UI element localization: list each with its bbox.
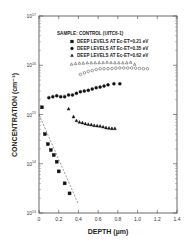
- data-point-circle-hollow: [134, 67, 137, 70]
- data-point-triangle: [67, 107, 70, 110]
- data-point-square: [43, 133, 46, 136]
- data-point-square: [46, 143, 49, 146]
- y-tick-label: 1017: [27, 13, 37, 20]
- data-point-circle: [79, 90, 82, 93]
- y-tick-exponent: 13: [32, 210, 36, 214]
- data-point-circle-hollow: [87, 70, 90, 73]
- data-point-circle-hollow: [115, 67, 118, 70]
- y-tick-exponent: 17: [32, 13, 36, 17]
- data-point-circle: [55, 94, 58, 97]
- data-point-triangle-hollow: [125, 61, 128, 63]
- data-point-circle: [107, 83, 110, 86]
- x-tick-label: 1.4: [174, 216, 181, 222]
- fit-line-group: [39, 115, 78, 205]
- data-point-circle: [99, 86, 102, 89]
- data-point-circle: [95, 86, 98, 89]
- data-point-triangle-hollow: [114, 61, 117, 63]
- data-point-circle: [75, 92, 78, 95]
- data-point-square: [57, 170, 60, 173]
- legend-marker-triangle: [71, 54, 74, 57]
- y-tick-label: 1016: [27, 62, 37, 69]
- legend-marker-square: [71, 40, 74, 43]
- data-point-triangle: [87, 123, 90, 126]
- series-3: [70, 61, 136, 65]
- data-point-circle-hollow: [126, 67, 129, 70]
- data-point-square: [40, 106, 43, 109]
- y-tick-label: 1014: [27, 160, 37, 167]
- data-point-circle: [103, 84, 106, 87]
- x-tick-label: 0.2: [55, 216, 62, 222]
- data-point-triangle-hollow: [82, 62, 85, 64]
- chart-title: SAMPLE: CONTROL (UITC6-1): [57, 31, 124, 36]
- data-point-square: [68, 192, 71, 195]
- data-point-triangle: [90, 123, 93, 126]
- data-point-triangle-hollow: [102, 61, 105, 63]
- series-1: [47, 82, 121, 99]
- data-point-triangle: [96, 124, 99, 127]
- data-point-triangle: [110, 127, 113, 130]
- data-point-triangle-hollow: [129, 61, 132, 63]
- data-point-circle: [112, 82, 115, 85]
- data-point-circle: [118, 82, 121, 85]
- data-point-triangle-hollow: [90, 61, 93, 63]
- x-tick-label: 0.8: [114, 216, 121, 222]
- data-point-square: [63, 182, 66, 185]
- data-point-circle-hollow: [111, 67, 114, 70]
- data-point-triangle: [81, 121, 84, 124]
- data-point-square: [55, 160, 58, 163]
- data-point-triangle-hollow: [98, 61, 101, 63]
- data-point-circle: [59, 95, 62, 98]
- data-point-triangle: [75, 119, 78, 122]
- data-point-triangle-hollow: [94, 61, 97, 63]
- legend-marker-circle: [71, 47, 74, 50]
- data-point-circle-hollow: [83, 72, 86, 75]
- y-tick-exponent: 15: [32, 111, 36, 115]
- data-point-circle: [63, 95, 66, 98]
- data-point-circle-hollow: [130, 67, 133, 70]
- legend: SAMPLE: CONTROL (UITC6-1) DEEP LEVELS AT…: [57, 31, 149, 58]
- data-point-circle: [71, 93, 74, 96]
- x-tick-label: 1.2: [154, 216, 161, 222]
- data-point-triangle-hollow: [121, 61, 124, 63]
- data-point-triangle: [84, 122, 87, 125]
- data-point-triangle: [113, 127, 116, 130]
- x-tick-label: 0.4: [75, 216, 82, 222]
- data-point-triangle: [102, 125, 105, 128]
- legend-label: DEEP LEVELS AT Ec-ET=0.62 eV: [77, 53, 149, 58]
- data-point-circle-hollow: [99, 67, 102, 70]
- data-point-circle-hollow: [91, 69, 94, 72]
- data-points: [40, 61, 148, 195]
- data-point-triangle: [78, 120, 81, 123]
- legend-label: DEEP LEVELS AT Ec-ET=0.35 eV: [77, 46, 149, 51]
- data-point-circle-hollow: [138, 67, 141, 70]
- data-point-triangle: [107, 126, 110, 129]
- series-2: [67, 107, 116, 129]
- data-point-circle: [47, 96, 50, 99]
- data-point-triangle-hollow: [86, 61, 89, 63]
- data-point-square: [52, 154, 55, 157]
- y-tick-exponent: 14: [32, 160, 36, 164]
- data-point-circle-hollow: [103, 67, 106, 70]
- data-point-square: [49, 149, 52, 152]
- data-point-triangle-hollow: [74, 62, 77, 64]
- data-point-circle-hollow: [95, 68, 98, 71]
- data-point-circle: [51, 95, 54, 98]
- series-0: [40, 106, 71, 195]
- data-point-circle: [91, 87, 94, 90]
- data-point-circle-hollow: [107, 67, 110, 70]
- data-point-circle-hollow: [119, 67, 122, 70]
- data-point-triangle: [93, 124, 96, 127]
- series-4: [79, 67, 149, 76]
- y-axis-label: CONCENTRATION (cm⁻³): [11, 73, 19, 157]
- data-point-triangle-hollow: [110, 61, 113, 63]
- data-point-circle: [87, 89, 90, 92]
- data-point-triangle-hollow: [133, 63, 136, 65]
- x-tick-label: 0.6: [95, 216, 102, 222]
- data-point-circle-hollow: [142, 67, 145, 70]
- dashed-fit-line: [39, 115, 78, 205]
- data-point-circle-hollow: [146, 67, 149, 70]
- legend-label: DEEP LEVELS AT Ec-ET=0.21 eV: [77, 39, 149, 44]
- data-point-circle: [67, 93, 70, 96]
- y-tick-label: 1015: [27, 111, 37, 118]
- y-tick-exponent: 16: [32, 62, 36, 66]
